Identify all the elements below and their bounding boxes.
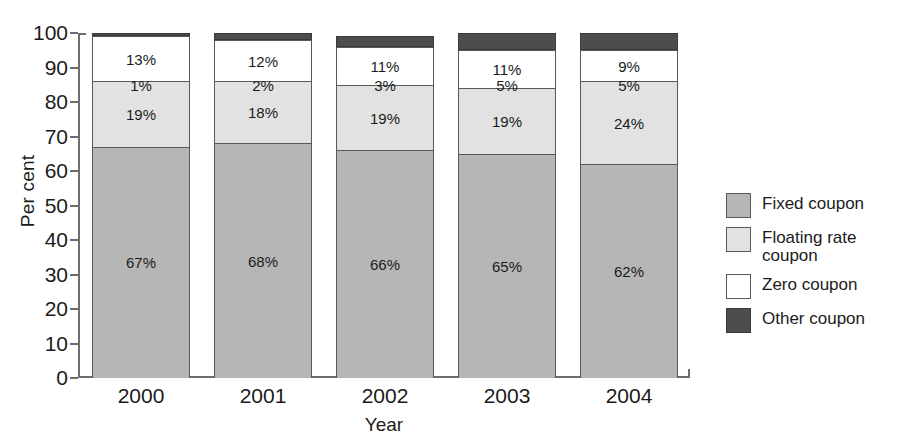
y-axis-line	[78, 33, 80, 378]
segment-fixed-2001[interactable]: 68%	[214, 143, 312, 378]
segment-value-label: 11%	[493, 61, 522, 78]
y-tick-80	[70, 101, 78, 103]
segment-value-label: 11%	[371, 58, 400, 75]
segment-fixed-2000[interactable]: 67%	[92, 147, 190, 378]
x-axis-title: Year	[78, 414, 690, 436]
segment-value-label: 13%	[126, 51, 156, 68]
segment-value-label: 68%	[248, 253, 278, 270]
y-tick-30	[70, 274, 78, 276]
y-tick-label-50: 50	[20, 195, 68, 216]
segment-fixed-2002[interactable]: 66%	[336, 150, 434, 378]
segment-fixed-2003[interactable]: 65%	[458, 154, 556, 378]
x-tick-label-2003: 2003	[458, 384, 556, 408]
legend-item-floating[interactable]: Floating rate coupon	[726, 227, 901, 265]
segment-value-label: 9%	[618, 58, 640, 75]
y-tick-label-10: 10	[20, 333, 68, 354]
legend-swatch-other	[726, 308, 751, 333]
segment-other-2003[interactable]: 5%	[458, 33, 556, 50]
segment-value-label: 24%	[614, 115, 644, 132]
x-tick-label-2004: 2004	[580, 384, 678, 408]
y-tick-0	[70, 377, 78, 379]
y-tick-label-60: 60	[20, 160, 68, 181]
y-tick-label-20: 20	[20, 298, 68, 319]
y-tick-50	[70, 205, 78, 207]
segment-value-label: 65%	[492, 258, 522, 275]
y-tick-100	[70, 32, 78, 34]
segment-value-label: 19%	[370, 110, 400, 127]
segment-value-label: 62%	[614, 263, 644, 280]
legend-label-zero: Zero coupon	[762, 274, 857, 294]
y-tick-label-80: 80	[20, 91, 68, 112]
top-label-2001: 2%	[214, 77, 312, 94]
y-tick-10	[70, 343, 78, 345]
segment-value-label: 12%	[248, 53, 278, 70]
top-label-2004: 5%	[580, 77, 678, 94]
segment-value-label: 67%	[126, 254, 156, 271]
x-tick-label-2000: 2000	[92, 384, 190, 408]
segment-value-label: 19%	[492, 113, 522, 130]
y-tick-40	[70, 239, 78, 241]
segment-value-label: 66%	[370, 256, 400, 273]
segment-other-2001[interactable]: 2%	[214, 33, 312, 40]
top-label-2002: 3%	[336, 77, 434, 94]
segment-other-2004[interactable]: 5%	[580, 33, 678, 50]
legend-label-floating: Floating rate coupon	[762, 227, 897, 265]
legend-label-other: Other coupon	[762, 308, 865, 328]
x-tick-label-2002: 2002	[336, 384, 434, 408]
chart-legend: Fixed couponFloating rate couponZero cou…	[726, 193, 901, 342]
segment-zero-2000[interactable]: 13%	[92, 36, 190, 81]
y-axis-top-cap	[78, 33, 86, 35]
legend-item-fixed[interactable]: Fixed coupon	[726, 193, 901, 218]
y-tick-20	[70, 308, 78, 310]
y-tick-90	[70, 67, 78, 69]
legend-swatch-floating	[726, 227, 751, 252]
legend-swatch-fixed	[726, 193, 751, 218]
segment-floating-2002[interactable]: 19%	[336, 85, 434, 151]
stacked-bar-chart: Per cent 1%13%19%67%2%12%18%68%3%11%19%6…	[0, 0, 901, 441]
segment-fixed-2004[interactable]: 62%	[580, 164, 678, 378]
y-tick-label-40: 40	[20, 229, 68, 250]
y-tick-label-70: 70	[20, 126, 68, 147]
legend-swatch-zero	[726, 274, 751, 299]
y-tick-label-30: 30	[20, 264, 68, 285]
y-tick-60	[70, 170, 78, 172]
y-tick-label-100: 100	[20, 22, 68, 43]
x-tick-label-2001: 2001	[214, 384, 312, 408]
legend-label-fixed: Fixed coupon	[762, 193, 864, 213]
segment-other-2002[interactable]: 3%	[336, 36, 434, 46]
y-tick-label-0: 0	[20, 367, 68, 388]
y-tick-label-90: 90	[20, 57, 68, 78]
segment-value-label: 19%	[126, 106, 156, 123]
y-tick-70	[70, 136, 78, 138]
legend-item-other[interactable]: Other coupon	[726, 308, 901, 333]
legend-item-zero[interactable]: Zero coupon	[726, 274, 901, 299]
segment-floating-2003[interactable]: 19%	[458, 88, 556, 154]
top-label-2000: 1%	[92, 77, 190, 94]
top-label-2003: 5%	[458, 77, 556, 94]
x-axis-right-cap	[688, 369, 690, 378]
segment-value-label: 18%	[248, 104, 278, 121]
segment-zero-2001[interactable]: 12%	[214, 40, 312, 81]
